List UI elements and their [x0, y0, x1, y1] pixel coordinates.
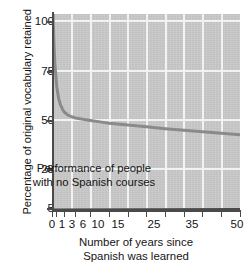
- x-tick-mark-50: [240, 212, 241, 217]
- retention-chart: Percentage of original vocabulary retain…: [0, 0, 249, 277]
- x-tick-label-10: 10: [87, 218, 109, 231]
- x-tick-label-25: 25: [143, 218, 165, 231]
- x-tick-mark-10: [90, 212, 91, 217]
- x-tick-mark-1: [56, 212, 57, 217]
- x-axis-title-line2: Spanish was learned: [36, 250, 236, 264]
- x-tick-mark-30: [165, 212, 166, 217]
- x-axis-title-line1: Number of years since: [36, 236, 236, 250]
- x-tick-mark-0: [52, 212, 53, 217]
- retention-curve-line: [53, 14, 240, 135]
- annotation-line1: Performance of people: [8, 161, 180, 175]
- x-tick-mark-25: [146, 212, 147, 217]
- x-tick-mark-3: [64, 212, 65, 217]
- x-tick-mark-20: [128, 212, 129, 217]
- x-tick-label-35: 35: [181, 218, 203, 231]
- x-axis-title: Number of years since Spanish was learne…: [36, 236, 236, 264]
- annotation-line2: with no Spanish courses: [8, 175, 180, 189]
- x-tick-mark-45: [221, 212, 222, 217]
- x-tick-mark-40: [202, 212, 203, 217]
- x-tick-label-50: 50: [226, 218, 248, 231]
- x-tick-mark-35: [184, 212, 185, 217]
- baseline-annotation: Performance of people with no Spanish co…: [8, 161, 180, 189]
- x-tick-mark-15: [109, 212, 110, 217]
- x-tick-mark-6: [75, 212, 76, 217]
- x-tick-label-15: 15: [107, 218, 129, 231]
